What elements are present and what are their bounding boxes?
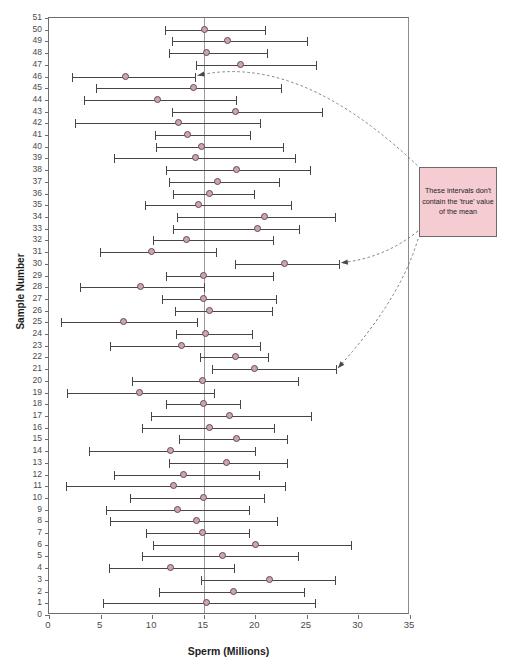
confidence-interval-row — [176, 334, 253, 335]
interval-upper-cap — [322, 108, 323, 117]
interval-upper-cap — [298, 552, 299, 561]
y-tick-label: 51 — [2, 13, 42, 22]
interval-upper-cap — [285, 482, 286, 491]
interval-lower-cap — [66, 482, 67, 491]
y-tick — [45, 158, 49, 159]
interval-upper-cap — [273, 236, 274, 245]
sample-mean-marker — [202, 330, 209, 337]
x-tick-label: 15 — [183, 620, 223, 630]
interval-lower-cap — [169, 49, 170, 58]
interval-upper-cap — [281, 84, 282, 93]
interval-bar — [61, 322, 197, 323]
sample-mean-marker — [261, 213, 268, 220]
sample-mean-marker — [148, 248, 155, 255]
y-tick — [45, 170, 49, 171]
interval-upper-cap — [249, 506, 250, 515]
y-tick-label: 14 — [2, 446, 42, 455]
confidence-interval-row — [66, 486, 287, 487]
confidence-interval-row — [109, 568, 235, 569]
interval-upper-cap — [351, 541, 352, 550]
y-tick-label: 7 — [2, 528, 42, 537]
interval-lower-cap — [110, 517, 111, 526]
interval-lower-cap — [114, 154, 115, 163]
confidence-interval-row — [96, 88, 282, 89]
sample-mean-marker — [226, 412, 233, 419]
interval-lower-cap — [61, 318, 62, 327]
confidence-interval-row — [173, 194, 256, 195]
sample-mean-marker — [281, 260, 288, 267]
interval-lower-cap — [153, 236, 154, 245]
interval-bar — [132, 381, 299, 382]
sample-mean-marker — [206, 307, 213, 314]
interval-lower-cap — [196, 61, 197, 70]
sample-mean-marker — [232, 353, 239, 360]
y-tick-label: 19 — [2, 388, 42, 397]
interval-upper-cap — [295, 154, 296, 163]
confidence-interval-row — [177, 217, 336, 218]
y-tick-label: 47 — [2, 60, 42, 69]
y-tick-label: 18 — [2, 399, 42, 408]
y-tick-label: 15 — [2, 434, 42, 443]
y-tick — [45, 603, 49, 604]
confidence-interval-row — [166, 404, 241, 405]
confidence-interval-row — [179, 439, 288, 440]
interval-bar — [114, 158, 296, 159]
y-tick — [45, 533, 49, 534]
sample-mean-marker — [170, 482, 177, 489]
y-tick-label: 1 — [2, 598, 42, 607]
confidence-interval-row — [165, 30, 266, 31]
y-tick-label: 45 — [2, 83, 42, 92]
sample-mean-marker — [219, 552, 226, 559]
confidence-interval-row — [114, 158, 296, 159]
y-tick-label: 50 — [2, 25, 42, 34]
interval-upper-cap — [268, 353, 269, 362]
interval-bar — [153, 240, 274, 241]
interval-lower-cap — [176, 330, 177, 339]
y-tick — [45, 510, 49, 511]
interval-upper-cap — [316, 61, 317, 70]
confidence-interval-row — [153, 240, 274, 241]
y-tick — [45, 545, 49, 546]
interval-lower-cap — [72, 73, 73, 82]
confidence-interval-row — [103, 603, 317, 604]
interval-bar — [72, 77, 197, 78]
y-tick-label: 13 — [2, 458, 42, 467]
sample-mean-marker — [233, 435, 240, 442]
y-tick-label: 43 — [2, 107, 42, 116]
confidence-interval-row — [110, 521, 278, 522]
y-tick-label: 17 — [2, 411, 42, 420]
confidence-interval-row — [162, 299, 276, 300]
y-tick-label: 9 — [2, 505, 42, 514]
interval-upper-cap — [291, 201, 292, 210]
confidence-interval-row — [142, 428, 275, 429]
interval-upper-cap — [236, 96, 237, 105]
confidence-interval-row — [169, 182, 280, 183]
y-tick — [45, 135, 49, 136]
interval-upper-cap — [279, 178, 280, 187]
confidence-interval-row — [106, 510, 250, 511]
sample-mean-marker — [175, 119, 182, 126]
confidence-interval-row — [173, 229, 300, 230]
interval-lower-cap — [175, 307, 176, 316]
y-tick-label: 3 — [2, 575, 42, 584]
sample-mean-marker — [199, 529, 206, 536]
confidence-interval-row — [200, 357, 269, 358]
interval-bar — [156, 147, 284, 148]
sample-mean-marker — [200, 494, 207, 501]
confidence-interval-row — [175, 311, 273, 312]
y-tick-label: 21 — [2, 364, 42, 373]
y-tick — [45, 463, 49, 464]
x-tick-label: 10 — [131, 620, 171, 630]
y-tick-label: 36 — [2, 189, 42, 198]
x-axis-title: Sperm (Millions) — [48, 645, 409, 657]
confidence-interval-row — [235, 264, 340, 265]
y-tick — [45, 322, 49, 323]
interval-bar — [176, 334, 253, 335]
sample-mean-marker — [120, 318, 127, 325]
interval-bar — [114, 475, 260, 476]
sample-mean-marker — [136, 389, 143, 396]
y-tick-label: 35 — [2, 200, 42, 209]
interval-bar — [130, 498, 264, 499]
y-tick — [45, 77, 49, 78]
y-tick-label: 41 — [2, 130, 42, 139]
